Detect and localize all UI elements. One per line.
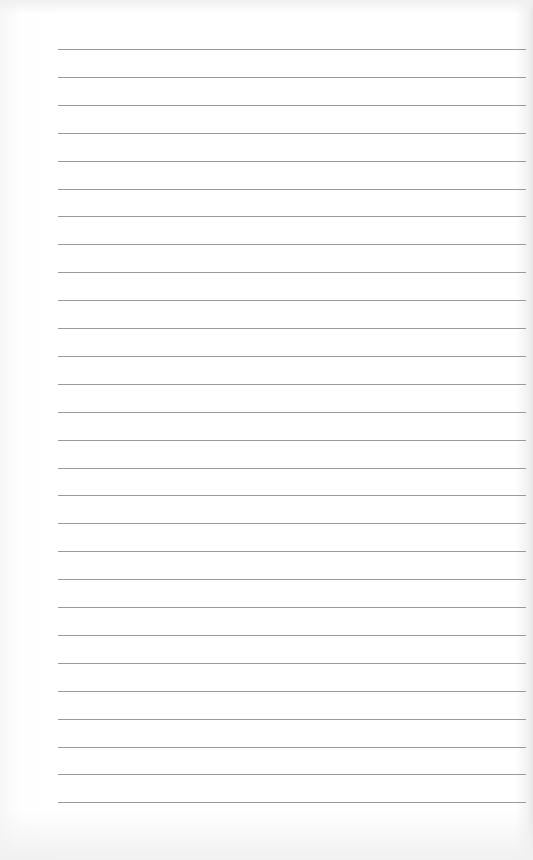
ruled-line <box>58 384 526 385</box>
lined-paper-page <box>0 0 533 860</box>
page-bottom-shadow <box>0 810 533 860</box>
ruled-line <box>58 328 526 329</box>
ruled-line <box>58 747 526 748</box>
ruled-line <box>58 635 526 636</box>
ruled-line <box>58 412 526 413</box>
ruled-line <box>58 719 526 720</box>
ruled-line <box>58 133 526 134</box>
ruled-line <box>58 663 526 664</box>
ruled-line <box>58 244 526 245</box>
ruled-line <box>58 495 526 496</box>
ruled-line <box>58 49 526 50</box>
ruled-line <box>58 607 526 608</box>
ruled-line <box>58 774 526 775</box>
ruled-line <box>58 468 526 469</box>
ruled-line <box>58 579 526 580</box>
ruled-line <box>58 802 526 803</box>
ruled-line <box>58 77 526 78</box>
ruled-line <box>58 300 526 301</box>
page-top-shadow <box>0 0 533 14</box>
ruled-line <box>58 216 526 217</box>
ruled-line <box>58 523 526 524</box>
ruled-line <box>58 356 526 357</box>
ruled-line <box>58 272 526 273</box>
ruled-line <box>58 440 526 441</box>
ruled-line <box>58 551 526 552</box>
ruled-line <box>58 189 526 190</box>
ruled-line <box>58 161 526 162</box>
ruled-line <box>58 691 526 692</box>
ruled-line <box>58 105 526 106</box>
